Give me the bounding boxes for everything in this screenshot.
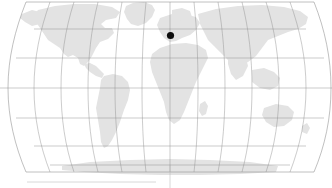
land-africa: [150, 43, 208, 124]
meridian-30w: [142, 2, 146, 172]
map-outline-right: [314, 2, 331, 172]
land-madagascar: [199, 101, 208, 116]
land-north-america: [34, 4, 120, 66]
land-central-america: [84, 63, 104, 78]
land-southeast-asia: [252, 68, 280, 90]
marker-layer[interactable]: [167, 32, 174, 39]
landmass-layer: [20, 2, 310, 175]
marker-point-1[interactable]: [167, 32, 174, 39]
map-outline-left: [8, 2, 26, 172]
land-asia: [198, 5, 308, 66]
world-map-figure: [0, 0, 332, 188]
world-map-canvas[interactable]: [0, 0, 332, 188]
land-south-america: [96, 74, 130, 148]
land-greenland: [124, 2, 155, 26]
